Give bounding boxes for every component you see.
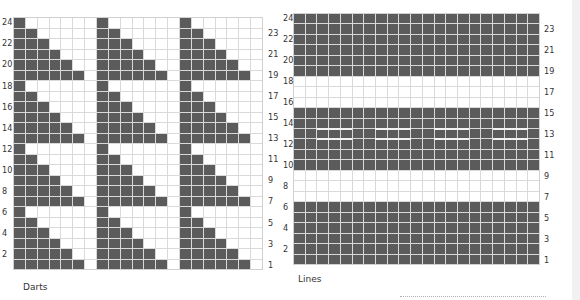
empty-cell <box>85 260 96 270</box>
filled-cell <box>481 150 492 159</box>
empty-cell <box>423 181 434 190</box>
empty-cell <box>216 155 227 165</box>
filled-cell <box>294 213 305 222</box>
row-label-left: 2 <box>283 245 288 254</box>
empty-cell <box>423 171 434 180</box>
filled-cell <box>180 102 191 112</box>
empty-cell <box>239 29 250 39</box>
row-label-left: 8 <box>2 186 7 195</box>
filled-cell <box>227 60 238 70</box>
filled-cell <box>180 186 191 196</box>
filled-cell <box>306 108 317 117</box>
empty-cell <box>73 123 84 133</box>
filled-cell <box>121 71 132 81</box>
filled-cell <box>180 71 191 81</box>
empty-cell <box>364 87 375 96</box>
filled-cell <box>180 155 191 165</box>
empty-cell <box>156 113 167 123</box>
filled-cell <box>353 108 364 117</box>
empty-cell <box>38 92 49 102</box>
filled-cell <box>14 186 25 196</box>
filled-cell <box>109 123 120 133</box>
row-label-left: 14 <box>2 123 12 132</box>
filled-cell <box>493 255 504 264</box>
empty-cell <box>239 102 250 112</box>
empty-cell <box>306 181 317 190</box>
filled-cell <box>180 29 191 39</box>
filled-cell <box>399 234 410 243</box>
filled-cell <box>156 260 167 270</box>
empty-cell <box>156 144 167 154</box>
empty-cell <box>85 39 96 49</box>
filled-cell <box>239 71 250 81</box>
empty-cell <box>227 207 238 217</box>
empty-cell <box>458 77 469 86</box>
filled-cell <box>38 71 49 81</box>
filled-cell <box>26 155 37 165</box>
filled-cell <box>505 234 516 243</box>
empty-cell <box>121 207 132 217</box>
filled-cell <box>227 123 238 133</box>
row-label-right: 9 <box>544 171 549 180</box>
lines-caption: Lines <box>298 274 321 284</box>
filled-cell <box>364 244 375 253</box>
empty-cell <box>144 207 155 217</box>
filled-cell <box>388 255 399 264</box>
empty-cell <box>168 18 179 28</box>
empty-cell <box>528 181 539 190</box>
filled-cell <box>528 35 539 44</box>
filled-cell <box>528 223 539 232</box>
empty-cell <box>329 192 340 201</box>
filled-cell <box>216 239 227 249</box>
filled-cell <box>192 186 203 196</box>
filled-cell <box>97 249 108 259</box>
filled-cell <box>180 207 191 217</box>
empty-cell <box>239 60 250 70</box>
filled-cell <box>388 24 399 33</box>
empty-cell <box>423 192 434 201</box>
filled-cell <box>97 102 108 112</box>
empty-cell <box>317 192 328 201</box>
filled-cell <box>493 35 504 44</box>
filled-cell <box>505 223 516 232</box>
empty-cell <box>168 207 179 217</box>
filled-cell <box>517 35 528 44</box>
filled-cell <box>481 255 492 264</box>
row-label-left: 6 <box>283 203 288 212</box>
filled-cell <box>481 24 492 33</box>
filled-cell <box>481 14 492 23</box>
filled-cell <box>144 249 155 259</box>
empty-cell <box>121 144 132 154</box>
filled-cell <box>329 202 340 211</box>
empty-cell <box>294 181 305 190</box>
empty-cell <box>73 176 84 186</box>
empty-cell <box>216 81 227 91</box>
filled-cell <box>470 234 481 243</box>
filled-cell <box>144 186 155 196</box>
filled-cell <box>133 176 144 186</box>
filled-cell <box>329 150 340 159</box>
filled-cell <box>306 150 317 159</box>
empty-cell <box>411 98 422 107</box>
empty-cell <box>458 98 469 107</box>
filled-cell <box>306 213 317 222</box>
filled-cell <box>14 60 25 70</box>
empty-cell <box>481 98 492 107</box>
empty-cell <box>239 39 250 49</box>
empty-cell <box>133 228 144 238</box>
empty-cell <box>61 18 72 28</box>
empty-cell <box>85 186 96 196</box>
filled-cell <box>50 113 61 123</box>
empty-cell <box>73 239 84 249</box>
filled-cell <box>180 134 191 144</box>
filled-cell <box>180 113 191 123</box>
filled-cell <box>446 139 457 148</box>
empty-cell <box>306 98 317 107</box>
filled-cell <box>470 35 481 44</box>
filled-cell <box>435 139 446 148</box>
empty-cell <box>399 77 410 86</box>
filled-cell <box>204 165 215 175</box>
filled-cell <box>97 113 108 123</box>
empty-cell <box>251 144 262 154</box>
empty-cell <box>121 155 132 165</box>
